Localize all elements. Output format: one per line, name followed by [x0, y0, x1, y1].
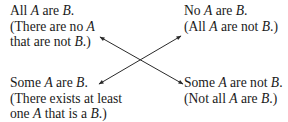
- contradiction-arrows: [0, 0, 288, 122]
- arrow-all-to-some-not: [100, 37, 183, 84]
